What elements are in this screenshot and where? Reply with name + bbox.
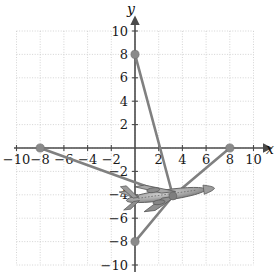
y-tick-label: 4	[120, 94, 128, 109]
x-tick-label: −10	[3, 152, 30, 167]
x-tick-label: 8	[226, 152, 234, 167]
data-point-marker	[36, 144, 44, 152]
y-axis-label: y	[126, 1, 136, 17]
y-tick-label: 10	[111, 24, 128, 39]
figure-container: −10−8−6−4−2246810 108642−2−4−6−8−10 x y	[0, 0, 280, 280]
x-tick-label: 4	[178, 152, 186, 167]
plane-nose	[203, 184, 215, 195]
chart-line-segment	[135, 54, 173, 196]
x-axis-label: x	[266, 141, 274, 157]
data-point-marker	[226, 144, 234, 152]
y-tick-label: −8	[109, 234, 128, 249]
x-tick-label: 10	[245, 152, 262, 167]
y-tick-label: −6	[109, 211, 128, 226]
x-tick-label: −8	[31, 152, 50, 167]
vertex-point-marker	[169, 192, 177, 200]
data-point-marker	[131, 50, 139, 58]
y-tick-label: 8	[120, 47, 128, 62]
coordinate-plane-chart: −10−8−6−4−2246810 108642−2−4−6−8−10 x y	[0, 0, 280, 280]
y-tick-label: 6	[120, 70, 128, 85]
data-point-marker	[131, 238, 139, 246]
y-tick-label: −10	[101, 258, 128, 273]
y-tick-label: 2	[120, 117, 128, 132]
